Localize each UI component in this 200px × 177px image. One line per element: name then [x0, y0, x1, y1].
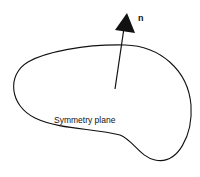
- plane-outline: [14, 45, 192, 161]
- shape-label: Symmetry plane: [54, 115, 116, 125]
- normal-vector-arrowhead: [115, 13, 135, 33]
- symmetry-plane-diagram: n Symmetry plane: [0, 0, 200, 177]
- normal-vector-shaft: [115, 28, 124, 89]
- vector-label: n: [138, 13, 144, 23]
